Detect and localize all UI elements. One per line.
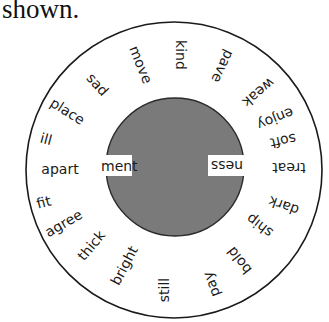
ring-word-treat: treat bbox=[272, 160, 306, 176]
suffix-ment: ment bbox=[101, 158, 138, 174]
suffix-ness: ness bbox=[211, 158, 243, 174]
ring-word-still: still bbox=[156, 278, 172, 302]
ring-word-kind: kind bbox=[173, 40, 189, 70]
suffix-ment-tab: ment bbox=[99, 155, 138, 176]
suffix-ness-tab: ness bbox=[208, 155, 246, 176]
word-wheel-diagram: ment ness kindpaveweakenjoysofttreatdark… bbox=[0, 0, 329, 322]
ring-word-apart: apart bbox=[41, 161, 79, 177]
